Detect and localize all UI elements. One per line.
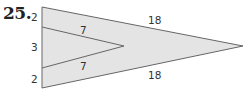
label-outer-top: 18 — [148, 14, 161, 26]
label-left-middle: 3 — [31, 41, 38, 53]
triangle-figure: 2 3 2 7 7 18 18 — [0, 0, 252, 94]
label-inner-top: 7 — [80, 24, 87, 36]
label-left-top: 2 — [31, 11, 38, 23]
label-left-bottom: 2 — [31, 73, 38, 85]
label-outer-bottom: 18 — [148, 69, 161, 81]
label-inner-bottom: 7 — [80, 60, 87, 72]
outer-triangle — [42, 7, 243, 88]
